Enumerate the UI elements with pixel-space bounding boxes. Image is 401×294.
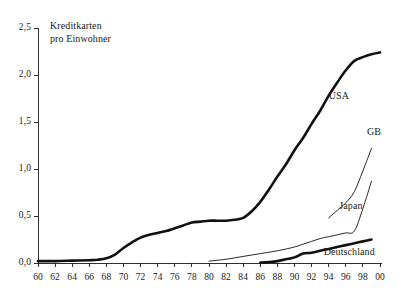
chart-container: Kreditkarten pro Einwohner 0,00,51,01,52… <box>0 0 401 294</box>
series-line-usa <box>38 52 380 261</box>
x-axis-ticks <box>38 263 380 267</box>
x-axis-tick-label: 66 <box>84 273 94 283</box>
x-axis-tick-label: 64 <box>67 273 77 283</box>
chart-axis-title: Kreditkarten pro Einwohner <box>50 20 111 45</box>
y-axis-tick-label: 1,5 <box>19 117 31 127</box>
x-axis-tick-label: 80 <box>204 273 214 283</box>
axes-group <box>34 28 382 267</box>
x-axis-tick-label: 96 <box>341 273 351 283</box>
x-axis-tick-label: 84 <box>238 273 248 283</box>
x-axis-tick-label: 62 <box>50 273 60 283</box>
y-axis-tick-label: 2,5 <box>19 23 31 33</box>
x-axis-tick-label: 72 <box>136 273 146 283</box>
x-axis-tick-label: 76 <box>170 273 180 283</box>
data-series-group <box>38 52 380 262</box>
x-axis-tick-label: 94 <box>324 273 334 283</box>
x-axis-tick-label: 82 <box>221 273 231 283</box>
series-label-japan: Japan <box>339 201 362 211</box>
x-axis-tick-label: 90 <box>290 273 300 283</box>
series-label-usa: USA <box>329 91 349 101</box>
x-axis-tick-label: 86 <box>255 273 265 283</box>
x-axis-tick-label: 74 <box>153 273 163 283</box>
y-axis-tick-label: 0,5 <box>19 211 31 221</box>
x-axis-tick-label: 60 <box>33 273 43 283</box>
y-axis-tick-label: 1,0 <box>19 164 31 174</box>
y-axis-tick-label: 0,0 <box>19 258 31 268</box>
x-axis-tick-label: 78 <box>187 273 197 283</box>
x-axis-tick-label: 00 <box>375 273 385 283</box>
y-axis-ticks <box>34 28 38 263</box>
x-axis-tick-label: 88 <box>273 273 283 283</box>
x-axis-tick-label: 70 <box>119 273 129 283</box>
series-label-deutschland: Deutschland <box>324 247 375 257</box>
x-axis-tick-label: 98 <box>358 273 368 283</box>
y-axis-tick-label: 2,0 <box>19 70 31 80</box>
x-axis-tick-label: 92 <box>307 273 317 283</box>
series-label-gb: GB <box>367 127 381 137</box>
x-axis-tick-label: 68 <box>102 273 112 283</box>
